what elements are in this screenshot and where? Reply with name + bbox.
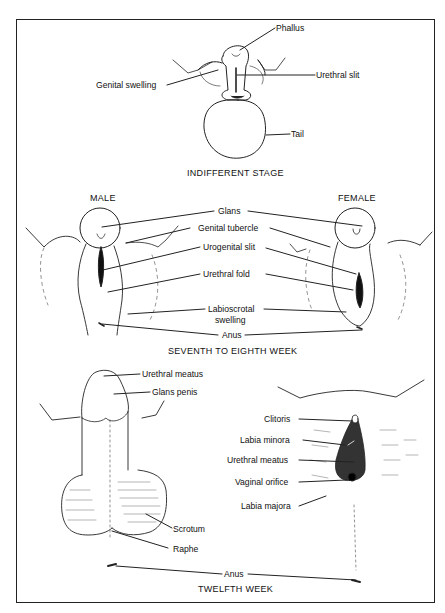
female-twelfth-week-drawing xyxy=(278,380,424,582)
heading-male: MALE xyxy=(90,194,116,203)
label-vaginal-orifice: Vaginal orifice xyxy=(235,478,288,487)
label-urogenital-slit: Urogenital slit xyxy=(203,243,255,252)
label-labia-majora: Labia majora xyxy=(241,502,291,511)
label-genital-tubercle: Genital tubercle xyxy=(198,224,258,233)
label-urethral-meatus-male: Urethral meatus xyxy=(142,370,203,379)
indifferent-stage-drawing xyxy=(173,46,285,158)
label-labioscrotal-swelling: swelling xyxy=(215,316,246,325)
caption-seventh-to-eighth-week: SEVENTH TO EIGHTH WEEK xyxy=(168,347,297,356)
label-glans: Glans xyxy=(218,207,240,216)
label-urethral-fold: Urethral fold xyxy=(203,270,250,279)
label-urethral-meatus-female: Urethral meatus xyxy=(227,456,288,465)
label-anus-12wk: Anus xyxy=(224,570,244,579)
male-twelfth-week-drawing xyxy=(40,370,167,566)
label-clitoris: Clitoris xyxy=(264,415,290,424)
label-phallus: Phallus xyxy=(276,24,304,33)
heading-female: FEMALE xyxy=(338,194,376,203)
label-tail: Tail xyxy=(291,130,304,139)
caption-indifferent-stage: INDIFFERENT STAGE xyxy=(187,169,284,178)
label-urethral-slit: Urethral slit xyxy=(316,71,359,80)
caption-twelfth-week: TWELFTH WEEK xyxy=(198,585,273,594)
label-labia-minora: Labia minora xyxy=(240,436,290,445)
label-glans-penis: Glans penis xyxy=(152,388,197,397)
label-genital-swelling: Genital swelling xyxy=(96,81,156,90)
label-scrotum: Scrotum xyxy=(173,525,205,534)
label-raphe: Raphe xyxy=(173,545,198,554)
label-anus-7wk: Anus xyxy=(222,331,242,340)
label-labioscrotal: Labioscrotal xyxy=(208,305,254,314)
